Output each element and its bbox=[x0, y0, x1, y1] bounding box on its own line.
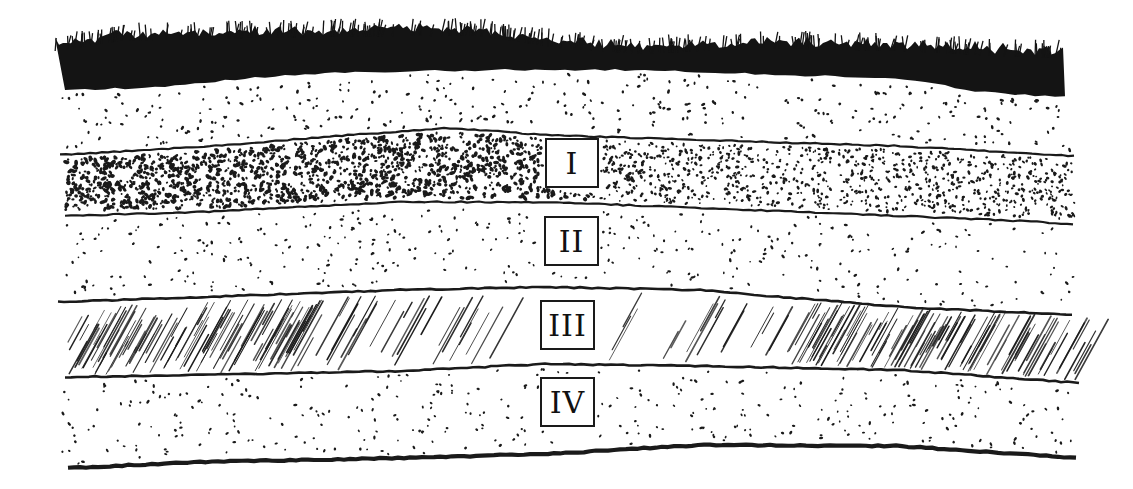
stipple-dot bbox=[326, 263, 331, 267]
stipple-dot bbox=[125, 114, 129, 117]
stipple-dot bbox=[531, 144, 534, 147]
stipple-dot bbox=[953, 170, 958, 173]
stipple-dot bbox=[984, 141, 987, 144]
stipple-dot bbox=[597, 415, 599, 418]
stipple-dot bbox=[208, 159, 212, 164]
stipple-dot bbox=[592, 195, 596, 198]
stipple-dot bbox=[649, 169, 652, 171]
stipple-dot bbox=[894, 374, 897, 377]
hatch-line bbox=[184, 302, 214, 356]
stipple-dot bbox=[513, 181, 519, 187]
stipple-dot bbox=[527, 168, 531, 173]
stipple-dot bbox=[518, 213, 521, 216]
stipple-dot bbox=[599, 197, 603, 199]
stipple-dot bbox=[377, 143, 382, 146]
stipple-dot bbox=[216, 184, 219, 189]
stipple-dot bbox=[730, 251, 734, 255]
hatch-line bbox=[721, 311, 744, 352]
stipple-dot bbox=[817, 418, 820, 421]
stipple-dot bbox=[867, 249, 870, 251]
stipple-dot bbox=[174, 435, 178, 438]
stipple-dot bbox=[420, 96, 424, 100]
stipple-dot bbox=[831, 150, 835, 153]
stipple-dot bbox=[791, 202, 794, 206]
stipple-dot bbox=[647, 399, 650, 402]
stipple-dot bbox=[1013, 441, 1017, 445]
stipple-dot bbox=[316, 178, 320, 182]
stipple-dot bbox=[282, 252, 284, 255]
stipple-dot bbox=[866, 195, 870, 199]
stipple-dot bbox=[241, 176, 246, 181]
stipple-dot bbox=[659, 101, 662, 104]
stipple-dot bbox=[839, 174, 842, 176]
stipple-dot bbox=[193, 149, 199, 154]
hatch-line bbox=[381, 312, 403, 352]
grass-blade bbox=[112, 27, 113, 42]
stipple-dot bbox=[1057, 109, 1060, 113]
stipple-dot bbox=[338, 88, 342, 92]
hatch-line bbox=[397, 296, 429, 354]
stipple-dot bbox=[296, 89, 300, 94]
stipple-dot bbox=[904, 205, 907, 208]
stipple-dot bbox=[178, 92, 181, 95]
stipple-dot bbox=[945, 102, 948, 106]
hatch-line bbox=[663, 332, 678, 359]
stipple-dot bbox=[826, 113, 829, 116]
stipple-dot bbox=[225, 451, 228, 454]
stipple-dot bbox=[954, 424, 957, 427]
stipple-dot bbox=[135, 448, 138, 452]
stipple-dot bbox=[724, 198, 726, 201]
stipple-dot bbox=[347, 89, 349, 92]
stipple-dot bbox=[1030, 196, 1034, 200]
stipple-dot bbox=[269, 152, 272, 154]
stipple-dot bbox=[639, 393, 643, 397]
stipple-dot bbox=[199, 198, 204, 201]
stipple-dot bbox=[315, 105, 318, 108]
stipple-dot bbox=[156, 194, 160, 198]
stipple-dot bbox=[749, 433, 753, 437]
stipple-dot bbox=[686, 116, 689, 120]
stipple-dot bbox=[134, 379, 138, 384]
stipple-dot bbox=[570, 113, 573, 117]
stipple-dot bbox=[838, 102, 842, 106]
stipple-dot bbox=[786, 101, 789, 104]
stipple-dot bbox=[851, 116, 854, 119]
stipple-dot bbox=[148, 283, 153, 286]
stipple-dot bbox=[741, 168, 744, 170]
hatch-line bbox=[79, 328, 99, 364]
stipple-dot bbox=[327, 259, 329, 261]
stipple-dot bbox=[946, 159, 949, 161]
stipple-dot bbox=[762, 158, 766, 162]
stipple-dot bbox=[796, 122, 800, 125]
stipple-dot bbox=[715, 171, 719, 174]
stipple-dot bbox=[858, 424, 861, 426]
stipple-dot bbox=[326, 109, 329, 112]
stipple-dot bbox=[825, 180, 828, 183]
stipple-dot bbox=[968, 200, 970, 203]
stipple-dot bbox=[670, 283, 673, 286]
stipple-dot bbox=[648, 174, 653, 178]
stipple-dot bbox=[267, 126, 271, 130]
stipple-dot bbox=[990, 125, 993, 130]
stipple-dot bbox=[1008, 163, 1012, 166]
stipple-dot bbox=[426, 424, 429, 427]
stipple-dot bbox=[609, 194, 611, 196]
stipple-dot bbox=[92, 284, 95, 287]
stipple-dot bbox=[478, 133, 485, 139]
stipple-dot bbox=[81, 92, 85, 96]
stipple-dot bbox=[958, 94, 962, 98]
hatch-line bbox=[723, 304, 747, 347]
stipple-dot bbox=[398, 374, 401, 376]
stipple-dot bbox=[153, 189, 157, 192]
stipple-dot bbox=[690, 161, 693, 164]
stipple-dot bbox=[78, 107, 80, 109]
stipple-dot bbox=[902, 383, 906, 387]
stipple-dot bbox=[901, 158, 905, 162]
stipple-dot bbox=[435, 383, 438, 385]
stipple-dot bbox=[224, 169, 228, 173]
stipple-dot bbox=[116, 92, 121, 97]
stipple-dot bbox=[770, 245, 774, 250]
stipple-dot bbox=[866, 233, 869, 237]
stipple-dot bbox=[618, 424, 622, 428]
stipple-dot bbox=[990, 303, 994, 306]
